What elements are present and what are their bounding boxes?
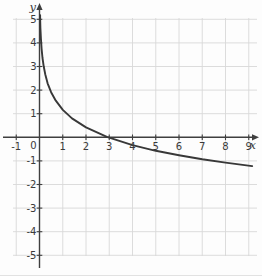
y-tick-label: 2	[30, 85, 36, 96]
x-axis-letter-label: x	[250, 138, 257, 152]
y-tick-label: -5	[27, 250, 37, 261]
y-tick-label: -4	[27, 226, 37, 237]
x-tick-label: 7	[199, 141, 205, 152]
graph-figure: -112345678954321-1-2-3-4-50yx	[0, 0, 262, 276]
y-axis-letter-label: y	[29, 0, 37, 14]
y-tick-label: -1	[27, 155, 37, 166]
x-tick-label: 2	[83, 141, 89, 152]
y-tick-label: -2	[27, 179, 37, 190]
y-tick-label: 5	[30, 14, 36, 25]
x-tick-label: 1	[60, 141, 66, 152]
origin-label: 0	[30, 140, 36, 151]
y-tick-label: 3	[30, 61, 36, 72]
y-tick-label: 1	[30, 108, 36, 119]
function-curve	[40, 15, 252, 166]
x-axis: -1123456789	[3, 134, 259, 151]
y-tick-label: 4	[30, 37, 36, 48]
x-tick-label: 8	[222, 141, 228, 152]
y-tick-label: -3	[27, 203, 37, 214]
x-tick-label: -1	[11, 141, 21, 152]
x-tick-label: 3	[106, 141, 112, 152]
x-tick-label: 6	[176, 141, 182, 152]
y-axis-arrow-icon	[36, 3, 42, 10]
